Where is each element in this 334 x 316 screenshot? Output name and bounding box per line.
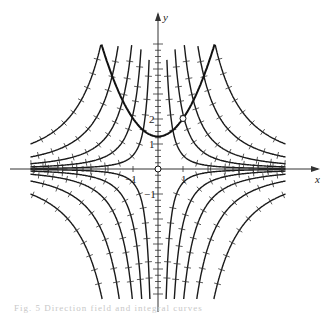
direction-mark (270, 159, 271, 166)
integral-curve (166, 170, 285, 300)
integral-curve (31, 49, 142, 166)
direction-mark (174, 264, 181, 265)
integral-curve (198, 46, 286, 157)
direction-mark (183, 61, 190, 62)
integral-curve (31, 194, 103, 299)
direction-mark (143, 238, 150, 239)
integral-curve (31, 45, 132, 164)
y-tick-label: 2 (149, 113, 155, 125)
integral-curve (31, 171, 142, 299)
direction-mark (125, 267, 132, 268)
direction-mark (166, 99, 173, 100)
direction-mark (133, 246, 140, 247)
integral-curve (31, 174, 133, 299)
x-tick-label: 1 (181, 173, 187, 185)
direction-mark (127, 281, 134, 282)
y-tick-label: 1 (149, 138, 155, 150)
integral-curve (31, 181, 120, 299)
x-axis-arrow-icon (311, 166, 320, 172)
direction-mark (136, 67, 143, 68)
direction-mark (143, 99, 150, 100)
integral-curve (215, 45, 285, 144)
direction-mark (45, 159, 46, 166)
direction-mark (119, 140, 125, 144)
direction-mark (182, 281, 189, 282)
direction-mark (240, 110, 246, 114)
y-tick-label: −1 (144, 188, 156, 200)
direction-mark (105, 132, 111, 136)
direction-mark (191, 140, 197, 144)
integral-curve (31, 45, 101, 144)
direction-mark (285, 160, 286, 167)
direction-mark (137, 279, 144, 280)
direction-mark (105, 163, 106, 170)
integral-curve (197, 181, 286, 299)
direction-mark (184, 267, 191, 268)
direction-mark (167, 223, 174, 224)
direction-mark (167, 115, 174, 116)
x-axis-label: x (314, 173, 320, 185)
integral-curve (31, 46, 119, 157)
direction-mark (52, 173, 53, 180)
integral-curve (31, 170, 150, 300)
integral-curve (184, 45, 285, 164)
direction-mark (132, 101, 139, 102)
integral-curve (175, 49, 286, 166)
y-axis-arrow-icon (155, 12, 161, 21)
direction-mark (166, 238, 173, 239)
open-point-marker (180, 116, 186, 122)
direction-mark (175, 86, 182, 87)
integral-curve (184, 174, 286, 299)
direction-mark (72, 161, 73, 168)
direction-mark (71, 110, 77, 114)
direction-mark (263, 173, 264, 180)
y-axis-label: y (162, 11, 168, 23)
axes: x y (10, 11, 320, 312)
direction-mark (142, 115, 149, 116)
direction-mark (134, 86, 141, 87)
direction-mark (51, 129, 55, 135)
direction-mark (31, 160, 32, 167)
direction-mark (38, 172, 39, 179)
integral-curve (214, 194, 286, 299)
direction-mark (136, 264, 143, 265)
direction-mark (261, 129, 265, 135)
integral-curve (174, 171, 285, 299)
x-tick-label: −1 (125, 173, 137, 185)
direction-mark (173, 67, 180, 68)
direction-mark (243, 161, 244, 168)
direction-mark (172, 279, 179, 280)
direction-mark (177, 101, 184, 102)
direction-mark (211, 163, 212, 170)
direction-mark (211, 169, 212, 176)
direction-mark (205, 132, 211, 136)
figure-caption: Fig. 5 Direction field and integral curv… (14, 303, 324, 313)
direction-field-figure: x y −1112−1 (0, 0, 334, 316)
direction-mark (176, 246, 183, 247)
direction-mark (126, 61, 133, 62)
direction-mark (142, 223, 149, 224)
direction-mark (105, 169, 106, 176)
direction-mark (277, 172, 278, 179)
open-point-marker (155, 166, 161, 172)
